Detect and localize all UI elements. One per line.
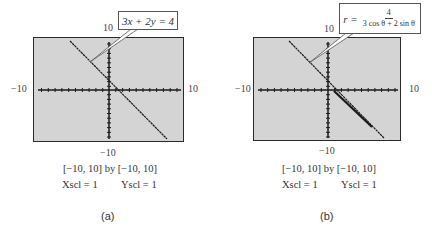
x-max-label-b: 10 xyxy=(409,83,419,94)
y-max-label-a: 10 xyxy=(103,22,113,33)
x-min-label-a: −10 xyxy=(11,83,27,94)
y-min-label-a: −10 xyxy=(100,147,116,158)
equation-callout-b: r = 4 3 cos θ + 2 sin θ xyxy=(339,3,421,34)
fraction-denominator: 3 cos θ + 2 sin θ xyxy=(361,19,417,29)
yscl-label-a: Yscl = 1 xyxy=(121,179,157,190)
panel-b: r = 4 3 cos θ + 2 sin θ 10 −10 10 −10 [−… xyxy=(216,0,432,232)
plot-a xyxy=(34,38,185,143)
graph-line-b-overlap xyxy=(334,91,372,127)
panel-a: 3x + 2y = 4 10 −10 10 −10 [−10, 10] by [… xyxy=(0,0,216,232)
equation-fraction-b: 4 3 cos θ + 2 sin θ xyxy=(361,8,417,29)
x-max-label-a: 10 xyxy=(188,83,198,94)
panel-label-a: (a) xyxy=(101,210,114,222)
graph-screen-b xyxy=(253,37,401,141)
equation-text-a: 3x + 2y = 4 xyxy=(122,15,174,27)
equation-callout-a: 3x + 2y = 4 xyxy=(118,11,178,30)
y-min-label-b: −10 xyxy=(319,145,335,156)
x-min-label-b: −10 xyxy=(235,83,251,94)
window-caption-a: [−10, 10] by [−10, 10] xyxy=(55,163,165,174)
xscl-label-a: Xscl = 1 xyxy=(62,179,98,190)
equation-lhs-b: r = xyxy=(343,13,357,25)
panel-label-b: (b) xyxy=(320,210,333,222)
yscl-label-b: Yscl = 1 xyxy=(341,179,377,190)
xscl-label-b: Xscl = 1 xyxy=(282,179,318,190)
plot-b xyxy=(254,38,402,142)
fraction-numerator: 4 xyxy=(385,8,393,19)
y-max-label-b: 10 xyxy=(324,23,334,34)
graph-screen-a xyxy=(33,37,184,142)
window-caption-b: [−10, 10] by [−10, 10] xyxy=(274,163,384,174)
